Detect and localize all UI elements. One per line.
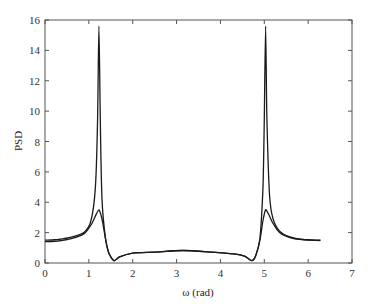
x-tick-label: 5 [262,267,268,279]
x-tick-label: 0 [42,267,48,279]
x-tick-label: 7 [349,267,355,279]
x-tick-label: 6 [305,267,311,279]
y-tick-label: 16 [29,14,41,26]
series-line-2 [45,210,320,261]
y-tick-label: 0 [35,257,41,269]
x-tick-label: 3 [174,267,180,279]
y-tick-label: 10 [29,105,41,117]
y-axis-ticks: 0246810121416 [29,14,352,269]
y-tick-label: 8 [35,136,41,148]
x-tick-label: 4 [218,267,224,279]
y-tick-label: 2 [35,227,41,239]
psd-chart: 01234567 0246810121416 ω (rad) PSD [0,0,372,304]
y-tick-label: 4 [35,196,41,208]
x-tick-label: 2 [130,267,136,279]
series-lines [45,26,320,261]
x-axis-label: ω (rad) [182,286,214,299]
plot-frame [45,20,352,263]
y-tick-label: 14 [29,44,41,56]
y-axis-label: PSD [12,131,24,151]
y-tick-label: 6 [35,166,41,178]
y-tick-label: 12 [29,75,40,87]
x-tick-label: 1 [86,267,92,279]
series-line-1 [45,26,320,261]
